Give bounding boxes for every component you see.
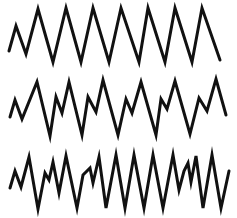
waveform-diagram xyxy=(0,0,237,218)
